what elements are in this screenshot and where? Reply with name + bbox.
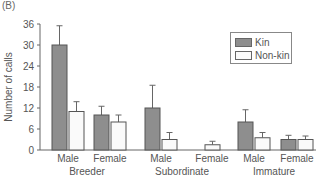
chart-figure: (B) 061218243036Number of callsMaleFemal… xyxy=(0,0,321,182)
x-tick-label: Female xyxy=(280,153,314,164)
y-tick-label: 24 xyxy=(23,61,35,72)
bar-non-kin xyxy=(111,122,126,150)
y-tick-label: 18 xyxy=(23,82,35,93)
bar-non-kin xyxy=(298,140,313,151)
legend-item-kin: Kin xyxy=(235,37,269,48)
group-label: Subordinate xyxy=(155,166,209,177)
x-tick-label: Male xyxy=(243,153,265,164)
y-tick-label: 6 xyxy=(28,124,34,135)
kin-swatch xyxy=(235,38,252,47)
legend: Kin Non-kin xyxy=(230,32,292,64)
bar-kin xyxy=(281,140,296,151)
bar-kin xyxy=(238,122,253,150)
y-axis-label: Number of calls xyxy=(3,52,14,121)
non-kin-swatch xyxy=(235,51,252,60)
x-tick-label: Female xyxy=(195,153,229,164)
legend-label-non-kin: Non-kin xyxy=(255,50,289,61)
y-tick-label: 0 xyxy=(28,145,34,156)
bar-kin xyxy=(145,108,160,150)
bar-non-kin xyxy=(162,140,177,151)
bar-non-kin xyxy=(205,145,220,150)
bar-chart: 061218243036Number of callsMaleFemaleMal… xyxy=(0,0,321,182)
bar-non-kin xyxy=(255,138,270,150)
bar-kin xyxy=(94,115,109,150)
y-tick-label: 30 xyxy=(23,40,35,51)
bar-kin xyxy=(52,45,67,150)
y-tick-label: 36 xyxy=(23,19,35,30)
legend-item-non-kin: Non-kin xyxy=(235,50,289,61)
x-tick-label: Male xyxy=(150,153,172,164)
y-tick-label: 12 xyxy=(23,103,35,114)
group-label: Breeder xyxy=(69,166,105,177)
x-tick-label: Female xyxy=(93,153,127,164)
x-tick-label: Male xyxy=(57,153,79,164)
legend-label-kin: Kin xyxy=(255,37,269,48)
bar-non-kin xyxy=(69,112,84,151)
group-label: Immature xyxy=(253,166,296,177)
